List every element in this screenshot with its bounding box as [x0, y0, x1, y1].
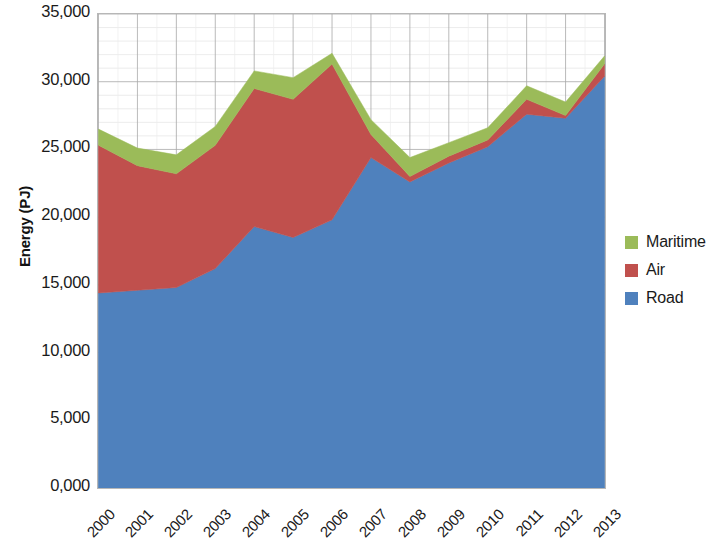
- chart-legend: MaritimeAirRoad: [625, 228, 712, 312]
- x-axis-tick-label: 2008: [386, 505, 429, 544]
- y-axis-tick-labels: 0,0005,00010,00015,00020,00025,00030,000…: [8, 0, 90, 544]
- legend-swatch-icon: [625, 292, 638, 305]
- plot-svg: [98, 14, 605, 488]
- y-axis-tick-label: 35,000: [12, 2, 90, 21]
- plot-area: [97, 13, 606, 489]
- legend-item[interactable]: Maritime: [625, 228, 712, 256]
- x-axis-tick-label: 2006: [308, 505, 351, 544]
- legend-item-label: Road: [646, 289, 683, 307]
- legend-item-label: Maritime: [646, 233, 706, 251]
- stacked-area-chart: Energy (PJ) 0,0005,00010,00015,00020,000…: [0, 0, 712, 544]
- x-axis-tick-label: 2011: [503, 505, 546, 544]
- x-axis-tick-label: 2003: [191, 505, 234, 544]
- y-axis-tick-label: 5,000: [12, 408, 90, 427]
- x-axis-tick-label: 2012: [541, 505, 584, 544]
- y-axis-tick-label: 10,000: [12, 341, 90, 360]
- legend-item[interactable]: Air: [625, 256, 712, 284]
- x-axis-tick-label: 2013: [580, 505, 623, 544]
- x-axis-tick-label: 2005: [269, 505, 312, 544]
- legend-swatch-icon: [625, 264, 638, 277]
- x-axis-tick-label: 2000: [74, 505, 117, 544]
- x-axis-tick-label: 2009: [425, 505, 468, 544]
- y-axis-tick-label: 25,000: [12, 137, 90, 156]
- legend-item-label: Air: [646, 261, 665, 279]
- x-axis-tick-label: 2010: [464, 505, 507, 544]
- x-axis-tick-label: 2004: [230, 505, 273, 544]
- x-axis-tick-label: 2002: [152, 505, 195, 544]
- legend-item[interactable]: Road: [625, 284, 712, 312]
- x-axis-tick-label: 2001: [113, 505, 156, 544]
- y-axis-tick-label: 30,000: [12, 70, 90, 89]
- y-axis-tick-label: 20,000: [12, 205, 90, 224]
- legend-swatch-icon: [625, 236, 638, 249]
- x-axis-tick-labels: 2000200120022003200420052006200720082009…: [0, 489, 712, 544]
- y-axis-tick-label: 15,000: [12, 273, 90, 292]
- x-axis-tick-label: 2007: [347, 505, 390, 544]
